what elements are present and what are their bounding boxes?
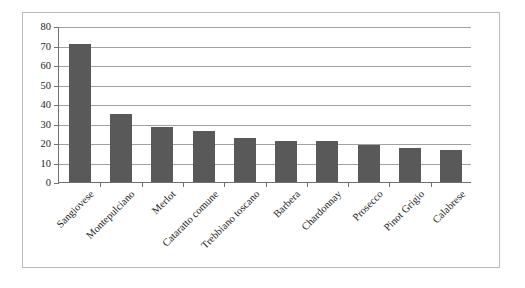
bar-slot: [142, 27, 183, 182]
y-axis-tick-label: 40: [41, 100, 52, 111]
y-axis-tick-label: 30: [41, 119, 52, 130]
y-axis-tick-label: 20: [41, 139, 52, 150]
x-axis-category-label: Pinot Grigio: [382, 189, 426, 233]
bar: [69, 44, 91, 182]
x-axis-category-label: Calabrese: [431, 189, 468, 226]
bar: [358, 145, 380, 182]
bar-slot: [266, 27, 307, 182]
bar: [151, 127, 173, 182]
bar: [110, 114, 132, 182]
chart-category-labels: SangioveseMontepulcianoMerlotCataratto c…: [58, 183, 471, 263]
bar-slot: [431, 27, 472, 182]
bar-slot: [389, 27, 430, 182]
bar: [275, 141, 297, 182]
x-axis-category-label: Merlot: [151, 189, 179, 217]
y-axis-tick-label: 80: [41, 22, 52, 33]
chart-figure-frame: 01020304050607080 SangioveseMontepulcian…: [22, 12, 500, 268]
bar-slot: [224, 27, 265, 182]
x-axis-category-label: Barbera: [272, 189, 303, 220]
y-axis-tick-label: 10: [41, 158, 52, 169]
x-axis-category-label: Sangiovese: [55, 189, 96, 230]
y-axis-tick-label: 70: [41, 41, 52, 52]
bar-slot: [183, 27, 224, 182]
bar-slot: [59, 27, 100, 182]
bar: [316, 141, 338, 182]
y-axis-tick-label: 50: [41, 80, 52, 91]
y-axis-tick-label: 0: [46, 178, 51, 189]
bar: [399, 148, 421, 182]
bar-slot: [348, 27, 389, 182]
bar: [193, 131, 215, 182]
x-axis-category-label: Chardonnay: [300, 189, 344, 233]
bar-slot: [100, 27, 141, 182]
x-axis-category-label: Prosecco: [351, 189, 385, 223]
y-axis-tick-label: 60: [41, 61, 52, 72]
bar: [234, 138, 256, 182]
chart-plot-area: 01020304050607080: [58, 27, 471, 183]
bar-slot: [307, 27, 348, 182]
bar: [440, 150, 462, 182]
